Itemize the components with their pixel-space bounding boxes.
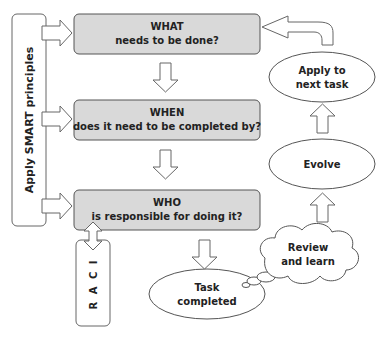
task-completed-line1: Task (195, 282, 220, 293)
apply-next-line1: Apply to (298, 65, 345, 76)
when-box (74, 100, 260, 140)
review-cloud (260, 223, 358, 283)
smart-raci-diagram: Apply SMART principles WHAT needs to be … (0, 0, 390, 337)
what-box (74, 14, 260, 54)
task-completed-ellipse (149, 269, 265, 319)
apply-next-ellipse (269, 52, 375, 102)
evolve-label: Evolve (304, 159, 341, 170)
who-subtitle: is responsible for doing it? (92, 211, 243, 222)
who-box (74, 190, 260, 230)
what-subtitle: needs to be done? (115, 35, 219, 46)
raci-label: R A C I (88, 259, 99, 310)
smart-principles-label: Apply SMART principles (23, 46, 36, 193)
review-line1: Review (288, 242, 328, 253)
arrow-down-who-to-completed (192, 240, 217, 269)
arrow-down-when-to-who (153, 150, 178, 179)
what-title: WHAT (150, 21, 183, 32)
arrow-down-what-to-when (153, 63, 178, 92)
review-line2: and learn (281, 256, 335, 267)
arrow-curved-back-to-what (262, 16, 333, 45)
when-subtitle: does it need to be completed by? (73, 121, 261, 132)
when-title: WHEN (150, 107, 185, 118)
who-title: WHO (153, 197, 181, 208)
arrow-up-review-to-evolve (310, 193, 335, 222)
arrow-up-evolve-to-apply (310, 104, 335, 133)
apply-next-line2: next task (296, 79, 349, 90)
task-completed-line2: completed (177, 296, 236, 307)
